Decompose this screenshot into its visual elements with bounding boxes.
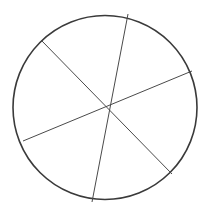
figure-canvas <box>0 0 210 216</box>
circle-diagram <box>0 0 210 216</box>
